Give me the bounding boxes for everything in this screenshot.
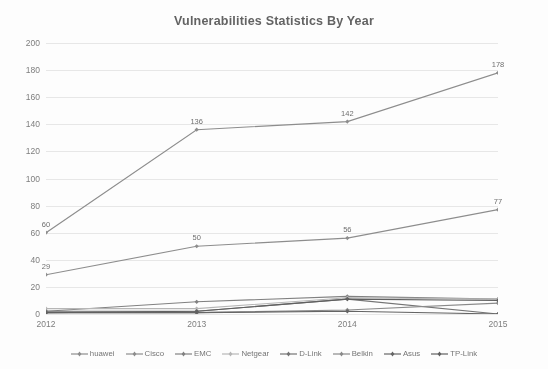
legend-item-emc[interactable]: EMC <box>175 344 211 362</box>
data-point-label: 136 <box>190 117 203 126</box>
y-axis-tick: 200 <box>26 38 40 48</box>
data-point-marker <box>496 312 498 314</box>
data-point-label: 77 <box>494 197 502 206</box>
data-point-label: 142 <box>341 109 354 118</box>
legend-marker-icon <box>222 344 239 362</box>
legend-marker-icon <box>71 344 88 362</box>
legend-label: huawei <box>90 349 115 358</box>
y-axis-tick: 120 <box>26 146 40 156</box>
series-line <box>46 210 498 275</box>
vulnerabilities-line-chart: Vulnerabilities Statistics By Year 20018… <box>0 0 548 369</box>
y-axis-tick: 60 <box>31 228 40 238</box>
y-axis-tick: 140 <box>26 119 40 129</box>
legend-marker-icon <box>175 344 192 362</box>
legend-marker-icon <box>333 344 350 362</box>
series-lines <box>46 43 498 314</box>
y-axis-tick: 160 <box>26 92 40 102</box>
data-point-label: 178 <box>492 60 505 69</box>
y-axis-tick: 100 <box>26 174 40 184</box>
legend-item-d-link[interactable]: D-Link <box>280 344 322 362</box>
legend-label: EMC <box>194 349 211 358</box>
y-axis-tick: 180 <box>26 65 40 75</box>
x-axis-tick: 2013 <box>187 319 206 329</box>
x-axis-tick: 2012 <box>37 319 56 329</box>
legend-item-huawei[interactable]: huawei <box>71 344 115 362</box>
legend-item-tp-link[interactable]: TP-Link <box>431 344 477 362</box>
data-point-marker <box>345 119 349 123</box>
x-axis-tick: 2015 <box>489 319 508 329</box>
y-axis-tick: 20 <box>31 282 40 292</box>
data-point-label: 56 <box>343 225 351 234</box>
data-point-label: 29 <box>42 262 50 271</box>
legend-label: Cisco <box>145 349 165 358</box>
plot-area: 200180160140120100806040200 201220132014… <box>46 43 498 314</box>
legend-marker-icon <box>431 344 448 362</box>
data-point-label: 60 <box>42 220 50 229</box>
legend-label: Asus <box>403 349 420 358</box>
legend-label: Belkin <box>352 349 373 358</box>
data-point-marker <box>496 208 498 212</box>
data-point-marker <box>345 236 349 240</box>
data-point-marker <box>195 300 199 304</box>
legend-label: TP-Link <box>450 349 477 358</box>
y-axis-tick: 40 <box>31 255 40 265</box>
y-axis-tick: 80 <box>31 201 40 211</box>
legend-marker-icon <box>280 344 297 362</box>
legend-label: D-Link <box>299 349 322 358</box>
y-axis-tick: 0 <box>35 309 40 319</box>
data-point-marker <box>195 244 199 248</box>
legend-item-cisco[interactable]: Cisco <box>126 344 165 362</box>
gridline <box>46 314 498 315</box>
legend-marker-icon <box>126 344 143 362</box>
data-point-label: 50 <box>192 233 200 242</box>
x-axis-tick: 2014 <box>338 319 357 329</box>
chart-legend: huaweiCiscoEMCNetgearD-LinkBelkinAsusTP-… <box>0 344 548 362</box>
series-line <box>46 73 498 233</box>
legend-item-asus[interactable]: Asus <box>384 344 420 362</box>
chart-title: Vulnerabilities Statistics By Year <box>0 14 548 28</box>
legend-label: Netgear <box>241 349 269 358</box>
legend-item-belkin[interactable]: Belkin <box>333 344 373 362</box>
data-point-marker <box>46 273 48 277</box>
legend-marker-icon <box>384 344 401 362</box>
data-point-marker <box>496 71 498 75</box>
legend-item-netgear[interactable]: Netgear <box>222 344 269 362</box>
